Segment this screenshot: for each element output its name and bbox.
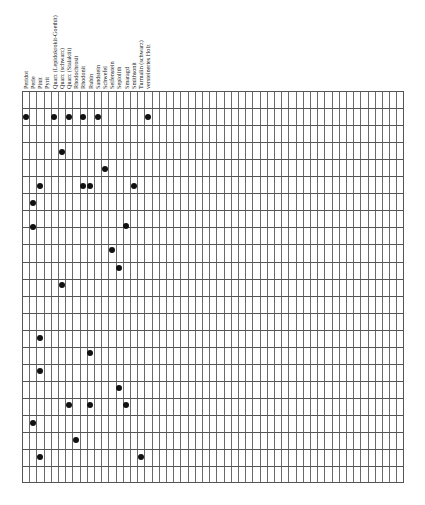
grid-column-line	[346, 92, 347, 482]
grid-column-line	[296, 92, 297, 482]
data-point-dot	[138, 454, 144, 460]
grid-column-line	[159, 92, 160, 482]
grid-row-line	[23, 296, 403, 297]
grid-column-line	[101, 92, 102, 482]
grid-row-line	[23, 279, 403, 280]
grid-column-line	[65, 92, 66, 482]
grid-column-line	[274, 92, 275, 482]
data-point-dot	[66, 114, 72, 120]
grid-column-line	[152, 92, 153, 482]
grid-column-line	[51, 92, 52, 482]
grid-column-line	[281, 92, 282, 482]
grid-column-line	[173, 92, 174, 482]
grid-row-line	[23, 398, 403, 399]
data-point-dot	[23, 114, 29, 120]
grid-column-line	[252, 92, 253, 482]
grid-column-line	[116, 92, 117, 482]
grid-column-line	[353, 92, 354, 482]
grid-column-line	[245, 92, 246, 482]
grid-row-line	[23, 125, 403, 126]
grid-column-line	[368, 92, 369, 482]
column-label: Sepiolith	[115, 67, 122, 89]
data-point-dot	[37, 368, 43, 374]
grid-column-line	[130, 92, 131, 482]
grid-row-line	[23, 176, 403, 177]
grid-row-line	[23, 108, 403, 109]
column-label: Pyrit	[43, 77, 50, 89]
column-label: Quarz (schwarz)	[58, 48, 65, 89]
data-point-dot	[59, 149, 65, 155]
column-label: Quarz (Lepidokrokit-Goethit)	[51, 15, 58, 89]
data-point-dot	[37, 183, 43, 189]
grid-column-line	[231, 92, 232, 482]
grid-row-line	[23, 432, 403, 433]
grid-row-line	[23, 193, 403, 194]
grid	[22, 91, 404, 483]
grid-column-line	[72, 92, 73, 482]
grid-row-line	[23, 415, 403, 416]
grid-row-line	[23, 244, 403, 245]
column-label: Smaragd	[123, 67, 130, 89]
data-point-dot	[145, 114, 151, 120]
data-point-dot	[109, 247, 115, 253]
data-point-dot	[59, 282, 65, 288]
grid-column-line	[202, 92, 203, 482]
grid-column-line	[195, 92, 196, 482]
grid-column-line	[180, 92, 181, 482]
grid-column-line	[216, 92, 217, 482]
grid-row-line	[23, 142, 403, 143]
grid-column-line	[267, 92, 268, 482]
grid-row-line	[23, 381, 403, 382]
grid-column-line	[94, 92, 95, 482]
grid-column-line	[396, 92, 397, 482]
column-label: Rubin	[87, 74, 94, 89]
column-label: Perle	[29, 76, 36, 89]
column-label: Smithsonit	[130, 62, 137, 89]
data-point-dot	[102, 166, 108, 172]
data-point-dot	[30, 420, 36, 426]
data-point-dot	[73, 437, 79, 443]
data-point-dot	[30, 200, 36, 206]
grid-column-line	[382, 92, 383, 482]
grid-column-line	[144, 92, 145, 482]
grid-column-line	[288, 92, 289, 482]
column-label: Turmalin (schwarz)	[137, 40, 144, 89]
grid-column-line	[36, 92, 37, 482]
grid-row-line	[23, 347, 403, 348]
grid-column-line	[108, 92, 109, 482]
column-label: Quarz (Stalaktit)	[65, 48, 72, 89]
grid-row-line	[23, 210, 403, 211]
column-label: versteinertes Holz	[144, 44, 151, 89]
grid-column-line	[324, 92, 325, 482]
grid-column-line	[332, 92, 333, 482]
grid-column-line	[188, 92, 189, 482]
data-point-dot	[95, 114, 101, 120]
grid-column-line	[375, 92, 376, 482]
grid-row-line	[23, 466, 403, 467]
data-point-dot	[131, 183, 137, 189]
grid-column-line	[389, 92, 390, 482]
grid-column-line	[224, 92, 225, 482]
grid-row-line	[23, 330, 403, 331]
grid-column-line	[166, 92, 167, 482]
grid-column-line	[360, 92, 361, 482]
grid-row-line	[23, 449, 403, 450]
grid-row-line	[23, 159, 403, 160]
grid-column-line	[310, 92, 311, 482]
column-label: Peridot	[22, 71, 29, 89]
grid-column-line	[80, 92, 81, 482]
grid-column-line	[238, 92, 239, 482]
grid-column-line	[123, 92, 124, 482]
grid-column-line	[137, 92, 138, 482]
data-point-dot	[66, 402, 72, 408]
data-point-dot	[37, 454, 43, 460]
dot-matrix-chart: PeridotPerlePinitPyritQuarz (Lepidokroki…	[0, 0, 425, 505]
grid-column-line	[209, 92, 210, 482]
grid-column-line	[260, 92, 261, 482]
column-label: Schwefel	[101, 66, 108, 89]
grid-row-line	[23, 227, 403, 228]
grid-column-line	[303, 92, 304, 482]
data-point-dot	[37, 335, 43, 341]
grid-column-line	[317, 92, 318, 482]
grid-row-line	[23, 262, 403, 263]
